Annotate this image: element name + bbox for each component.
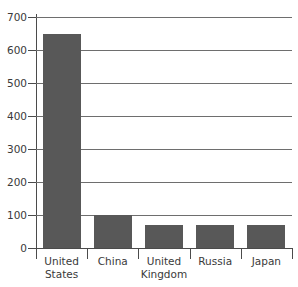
x-axis-category-label: United States	[36, 255, 87, 281]
x-axis-category-label: United Kingdom	[138, 255, 189, 281]
x-axis-tick-marks	[0, 0, 298, 287]
x-axis-category-label: Russia	[190, 255, 241, 268]
x-axis-category-label: China	[87, 255, 138, 268]
x-axis-category-label: Japan	[241, 255, 292, 268]
x-axis-category-labels: United StatesChinaUnited KingdomRussiaJa…	[0, 255, 298, 287]
bar-chart: 0100200300400500600700 United StatesChin…	[0, 0, 298, 287]
